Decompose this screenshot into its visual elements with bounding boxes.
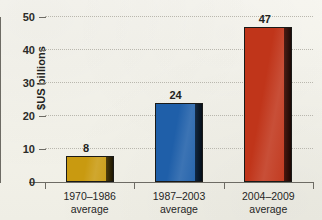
- category-qualifier: average: [45, 203, 134, 216]
- x-axis-category-label: 1970–1986average: [45, 190, 134, 218]
- bar-shadow-face: [195, 104, 202, 181]
- y-axis-title: $US billions: [35, 33, 47, 123]
- y-axis-tick-label: 10: [23, 143, 35, 156]
- category-period: 1970–1986: [63, 190, 116, 202]
- plot-area: 82447: [45, 17, 313, 182]
- x-axis-category-label: 1987–2003average: [134, 190, 223, 218]
- y-axis-tick: 50: [39, 17, 46, 18]
- x-axis-line: [29, 182, 314, 183]
- category-qualifier: average: [134, 203, 223, 216]
- bar-shadow-face: [284, 28, 291, 181]
- y-axis-line: [0, 17, 1, 183]
- bar: 8: [66, 156, 114, 182]
- category-period: 2004–2009: [242, 190, 295, 202]
- x-axis-tick: [45, 182, 46, 189]
- y-axis-tick: 20: [39, 116, 46, 117]
- x-axis-tick: [224, 182, 225, 189]
- y-axis-tick-label: 20: [23, 110, 35, 123]
- bar-chart-figure: $US billions 01020304050 82447 1970–1986…: [0, 0, 322, 220]
- x-axis-category-labels: 1970–1986average1987–2003average2004–200…: [45, 190, 313, 218]
- bar-value-label: 47: [245, 13, 284, 25]
- bar: 24: [155, 103, 203, 182]
- category-qualifier: average: [224, 203, 313, 216]
- y-axis-tick-label: 40: [23, 44, 35, 57]
- bar-shadow-face: [106, 157, 113, 181]
- bar-value-label: 24: [156, 89, 195, 101]
- y-axis-tick-label: 0: [29, 176, 35, 189]
- y-axis-tick: 30: [39, 83, 46, 84]
- bar: 47: [244, 27, 292, 182]
- y-axis-tick: 40: [39, 50, 46, 51]
- y-axis-tick-label: 50: [23, 11, 35, 24]
- x-axis-tick: [313, 182, 314, 189]
- x-axis-category-label: 2004–2009average: [224, 190, 313, 218]
- x-axis-tick: [134, 182, 135, 189]
- y-axis-tick: 10: [39, 149, 46, 150]
- y-axis-tick-label: 30: [23, 77, 35, 90]
- category-period: 1987–2003: [153, 190, 206, 202]
- bar-value-label: 8: [67, 142, 106, 154]
